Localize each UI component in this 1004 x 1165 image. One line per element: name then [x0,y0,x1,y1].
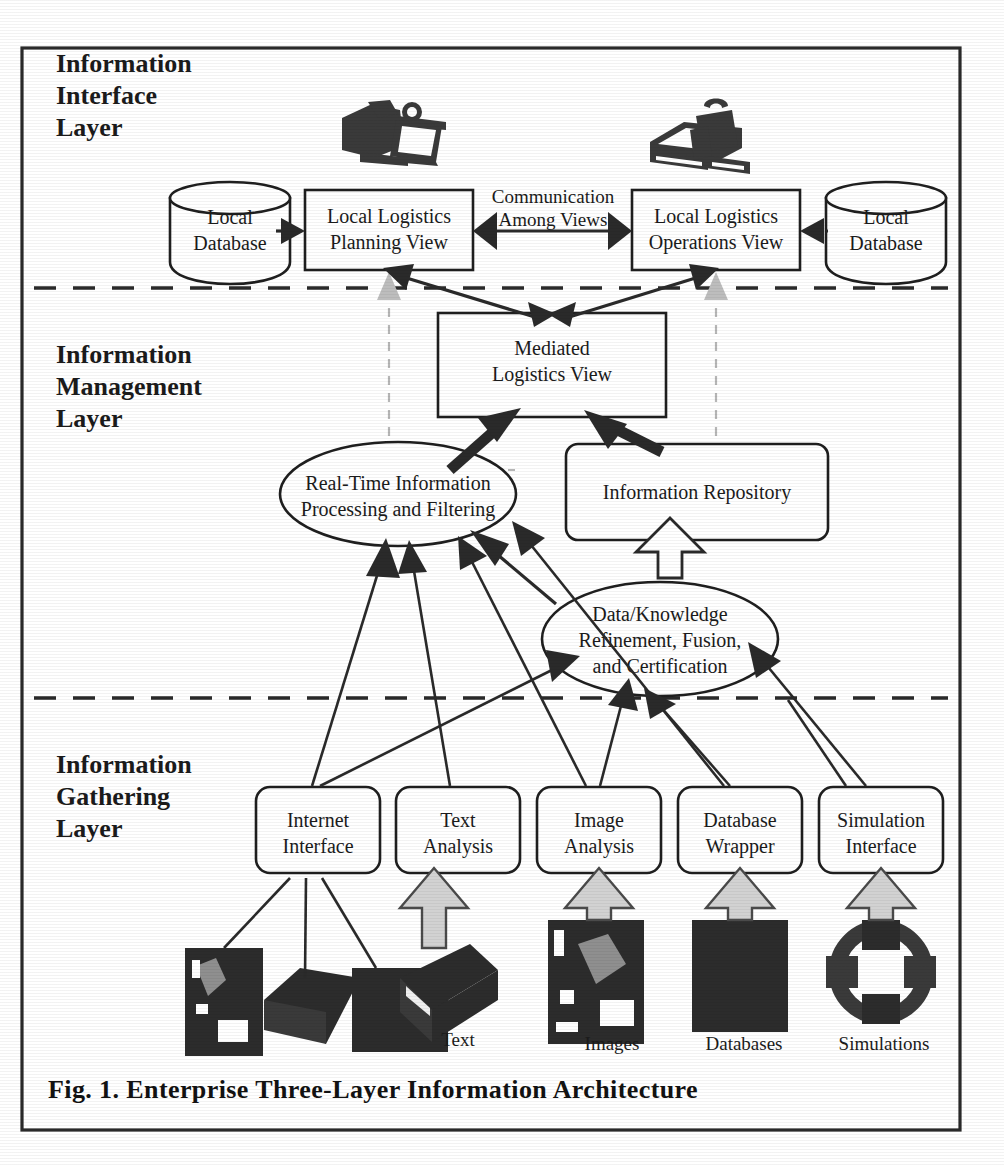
local-database-left-line-2: Database [193,232,266,254]
local-logistics-planning-view: Local Logistics Planning View [305,190,473,270]
mediated-view-line-1: Mediated [514,337,590,359]
mediated-view-line-2: Logistics View [492,363,613,386]
layer-title-management-line-1: Information [56,340,192,369]
simulation-interface-line-2: Interface [845,835,916,857]
layer-title-management: Information Management Layer [56,340,202,433]
layer-title-interface-line-1: Information [56,49,192,78]
fusion-line-1: Data/Knowledge [592,603,728,626]
database-wrapper-line-1: Database [703,809,776,831]
text-analysis-line-1: Text [440,809,476,831]
arrow-database-to-fusion [644,688,730,786]
figure-root: Information Interface Layer Information … [0,0,1004,1165]
image-analysis-line-1: Image [574,809,624,832]
arrow-image-to-fusion [600,678,638,786]
architecture-diagram: Information Interface Layer Information … [0,0,1004,1165]
local-database-left: Local Database [170,182,290,284]
gathering-node-internet-interface: Internet Interface [256,787,380,873]
layer-title-management-line-2: Management [56,372,202,401]
simulation-interface-line-1: Simulation [837,809,925,831]
mediated-logistics-view: Mediated Logistics View [438,313,666,417]
communication-label-line-1: Communication [492,186,615,207]
layer-title-interface-line-3: Layer [56,113,122,142]
source-label-simulations: Simulations [839,1033,930,1054]
fusion-line-3: and Certification [593,655,728,677]
image-icon [548,920,644,1044]
communication-among-views: Communication Among Views [473,186,632,250]
repository-label: Information Repository [603,481,791,504]
source-label-databases: Databases [705,1033,782,1054]
layer-title-gathering-line-1: Information [56,750,192,779]
figure-caption: Fig. 1. Enterprise Three-Layer Informati… [48,1075,698,1104]
source-label-text: Text [441,1029,475,1050]
arrow-fusion-to-realtime [470,530,556,604]
gathering-node-image-analysis: Image Analysis [537,787,661,873]
data-knowledge-fusion-ellipse: Data/Knowledge Refinement, Fusion, and C… [542,582,778,696]
operations-view-line-2: Operations View [649,231,784,254]
web-page-icon [264,878,360,1044]
local-database-left-line-1: Local [207,206,253,228]
layer-title-management-line-3: Layer [56,404,122,433]
arrow-right-db-to-operations [800,218,828,244]
local-database-right: Local Database [826,182,946,284]
gray-block-arrow-images [565,868,633,920]
simulation-gear-icon [826,920,936,1024]
information-repository: Information Repository [566,444,828,540]
operations-view-line-1: Local Logistics [654,205,778,228]
workstation-icon [650,99,750,175]
internet-interface-line-2: Interface [282,835,353,857]
layer-title-gathering: Information Gathering Layer [56,750,192,843]
source-label-images: Images [585,1033,640,1054]
fusion-line-2: Refinement, Fusion, [579,629,742,651]
arrow-internet-to-realtime [312,538,400,786]
gathering-node-database-wrapper: Database Wrapper [678,787,802,873]
workstation-icon [342,100,446,166]
database-wrapper-line-2: Wrapper [705,835,774,858]
image-analysis-line-2: Analysis [564,835,634,858]
database-block-icon [692,920,788,1032]
layer-title-interface: Information Interface Layer [56,49,192,142]
realtime-line-2: Processing and Filtering [301,498,495,521]
gathering-node-text-analysis: Text Analysis [396,787,520,873]
arrow-text-to-realtime [398,540,450,786]
gray-block-arrow-text [400,868,468,948]
layer-title-gathering-line-3: Layer [56,814,122,843]
realtime-line-1: Real-Time Information [305,472,490,494]
planning-view-line-1: Local Logistics [327,205,451,228]
gray-block-arrow-databases [706,868,774,920]
gathering-node-simulation-interface: Simulation Interface [819,787,943,873]
arrow-simulation-to-fusion [748,642,866,786]
communication-label-line-2: Among Views [499,209,608,230]
arrow-simulation-to-realtime [788,700,846,786]
realtime-processing-ellipse: Real-Time Information Processing and Fil… [280,442,516,546]
local-database-right-line-1: Local [863,206,909,228]
planning-view-line-2: Planning View [330,231,448,254]
layer-title-interface-line-2: Interface [56,81,157,110]
gray-block-arrow-simulations [847,868,915,920]
layer-title-gathering-line-2: Gathering [56,782,170,811]
internet-interface-line-1: Internet [287,809,350,831]
text-analysis-line-2: Analysis [423,835,493,858]
local-logistics-operations-view: Local Logistics Operations View [632,190,800,270]
arrow-internet-to-fusion [320,650,580,786]
local-database-right-line-2: Database [849,232,922,254]
